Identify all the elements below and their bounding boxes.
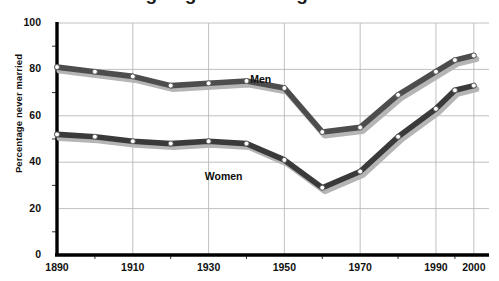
data-point-marker [206, 81, 211, 86]
x-tick-label: 1890 [27, 261, 87, 273]
series-line [57, 86, 474, 188]
y-axis-ticks: 020406080100 [8, 0, 41, 281]
data-point-marker [282, 86, 287, 91]
y-tick-label: 60 [11, 109, 41, 121]
data-point-marker [55, 65, 60, 70]
data-point-marker [320, 130, 325, 135]
y-tick-label: 80 [11, 62, 41, 74]
data-point-marker [168, 141, 173, 146]
data-point-marker [244, 141, 249, 146]
data-point-marker [358, 125, 363, 130]
data-point-marker [452, 88, 457, 93]
x-tick-label: 1950 [254, 261, 314, 273]
y-tick-label: 0 [11, 248, 41, 260]
data-point-marker [244, 79, 249, 84]
x-tick-label: 2000 [444, 261, 499, 273]
data-point-marker [471, 83, 476, 88]
data-point-marker [282, 157, 287, 162]
data-point-marker [396, 134, 401, 139]
chart-figure: Average age at marriage Percentage never… [0, 0, 499, 281]
data-point-marker [206, 139, 211, 144]
y-tick-label: 100 [11, 16, 41, 28]
x-tick-label: 1970 [330, 261, 390, 273]
data-point-marker [433, 106, 438, 111]
series-label-men: Men [250, 73, 271, 85]
data-point-marker [320, 185, 325, 190]
data-point-marker [55, 132, 60, 137]
data-point-marker [471, 53, 476, 58]
x-tick-label: 1930 [179, 261, 239, 273]
data-point-marker [92, 69, 97, 74]
data-point-marker [452, 58, 457, 63]
data-point-marker [130, 139, 135, 144]
y-tick-label: 40 [11, 155, 41, 167]
data-point-marker [433, 69, 438, 74]
data-point-marker [396, 92, 401, 97]
y-tick-label: 20 [11, 202, 41, 214]
data-point-marker [168, 83, 173, 88]
data-point-marker [130, 74, 135, 79]
x-tick-label: 1910 [103, 261, 163, 273]
data-point-marker [358, 169, 363, 174]
series-label-women: Women [205, 170, 243, 182]
line-chart-plot [0, 0, 499, 281]
data-point-marker [92, 134, 97, 139]
series-women [55, 83, 477, 191]
